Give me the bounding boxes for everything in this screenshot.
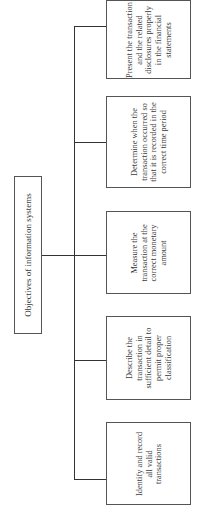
- child-node-present: Present the transaction and the related …: [106, 0, 191, 79]
- branch-connector-2: [74, 142, 106, 143]
- branch-connector-4: [74, 360, 106, 361]
- child-node-label: Describe the transaction in sufficient d…: [124, 320, 172, 396]
- branch-connector-5: [74, 479, 106, 480]
- root-connector: [42, 255, 74, 256]
- root-node: Objectives of information systems: [14, 176, 42, 334]
- branch-connector-1: [74, 26, 106, 27]
- child-node-timing: Determine when the transaction occurred …: [106, 96, 191, 188]
- child-node-measure: Measure the transaction at the correct m…: [106, 211, 191, 294]
- child-node-label: Measure the transaction at the correct m…: [129, 217, 168, 289]
- child-node-identify: Identify and record all valid transactio…: [106, 422, 191, 505]
- child-node-label: Identify and record all valid transactio…: [134, 431, 163, 497]
- child-node-label: Determine when the transaction occurred …: [129, 102, 168, 182]
- child-node-describe: Describe the transaction in sufficient d…: [106, 316, 191, 400]
- child-node-label: Present the transaction and the related …: [124, 2, 172, 78]
- trunk-line: [74, 26, 75, 480]
- root-node-label: Objectives of information systems: [23, 193, 33, 317]
- branch-connector-3: [74, 255, 106, 256]
